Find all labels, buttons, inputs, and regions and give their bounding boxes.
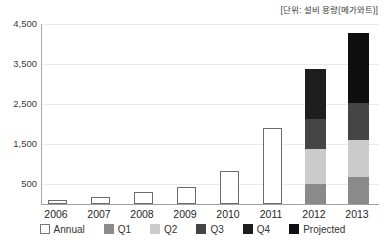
bar-2012-q2 [305, 149, 326, 184]
legend-item-q2: Q2 [150, 224, 177, 235]
legend-label: Annual [54, 224, 85, 235]
bar-2008-annual [134, 192, 153, 204]
legend-label: Q2 [164, 224, 177, 235]
legend-item-projected: Projected [289, 224, 345, 235]
legend-item-q1: Q1 [104, 224, 131, 235]
x-tick-label-2010: 2010 [206, 208, 250, 220]
legend-label: Q3 [210, 224, 223, 235]
gridline-2500 [42, 104, 379, 105]
x-tick-label-2012: 2012 [292, 208, 336, 220]
legend: AnnualQ1Q2Q3Q4Projected [0, 221, 385, 237]
x-tick-label-2007: 2007 [77, 208, 121, 220]
legend-swatch-annual [40, 224, 50, 234]
legend-swatch-q2 [150, 224, 160, 234]
bar-2009-annual [177, 187, 196, 204]
bar-2007-annual [91, 197, 110, 204]
legend-item-q3: Q3 [196, 224, 223, 235]
legend-swatch-q4 [243, 224, 253, 234]
bar-2011-annual [263, 128, 282, 204]
bar-2012-q4 [305, 69, 326, 119]
bar-2013-q1 [348, 177, 369, 204]
x-tick-label-2011: 2011 [249, 208, 293, 220]
legend-label: Q1 [118, 224, 131, 235]
legend-label: Q4 [257, 224, 270, 235]
legend-swatch-q1 [104, 224, 114, 234]
bar-2013-q3 [348, 103, 369, 140]
y-tick-label: 2,500 [0, 98, 37, 110]
y-tick-label: 4,500 [0, 18, 37, 30]
bar-2013-q2 [348, 140, 369, 177]
y-tick-label: 500 [0, 178, 37, 190]
y-tick-label: 1,500 [0, 138, 37, 150]
bar-2012-q1 [305, 184, 326, 204]
x-tick-label-2008: 2008 [120, 208, 164, 220]
gridline-3500 [42, 64, 379, 65]
bar-2013-projected [348, 33, 369, 103]
legend-label: Projected [303, 224, 345, 235]
plot-area [41, 24, 379, 205]
x-tick-label-2006: 2006 [34, 208, 78, 220]
chart: [단위: 설비 용량(메가와트)] 4,5003,5002,5001,50050… [0, 0, 385, 242]
bar-2006-annual [48, 200, 67, 204]
unit-label: [단위: 설비 용량(메가와트)] [281, 3, 378, 15]
x-tick-label-2009: 2009 [163, 208, 207, 220]
legend-swatch-projected [289, 224, 299, 234]
gridline-4500 [42, 24, 379, 25]
bar-2010-annual [220, 171, 239, 204]
legend-swatch-q3 [196, 224, 206, 234]
y-tick-label: 3,500 [0, 58, 37, 70]
gridline-500 [42, 184, 379, 185]
gridline-1500 [42, 144, 379, 145]
legend-item-annual: Annual [40, 224, 85, 235]
x-tick-label-2013: 2013 [335, 208, 379, 220]
legend-item-q4: Q4 [243, 224, 270, 235]
bar-2012-q3 [305, 119, 326, 149]
